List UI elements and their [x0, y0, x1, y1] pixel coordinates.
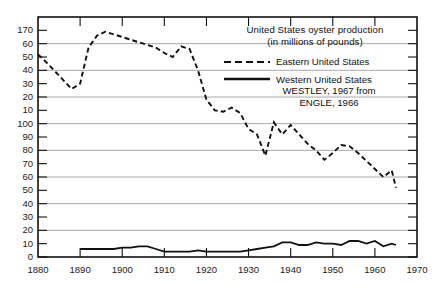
x-axis-tick-label: 1960 — [355, 265, 395, 275]
y-axis-tick-label: 40 — [0, 199, 33, 209]
legend-title-line-2: (in millions of pounds) — [222, 36, 408, 48]
legend-entry-western: Western United States — [222, 74, 408, 86]
y-axis-tick-label: 60 — [0, 172, 33, 182]
y-axis-tick-label: 30 — [0, 79, 33, 89]
y-axis-tick-label: 90 — [0, 132, 33, 142]
y-axis-tick-label: 60 — [0, 39, 33, 49]
x-axis-tick-label: 1920 — [186, 265, 226, 275]
legend-credit-line-1: WESTLEY, 1967 from — [250, 85, 408, 97]
legend-title-line-1: United States oyster production — [222, 24, 408, 36]
series-line-western — [80, 241, 396, 252]
x-axis-tick-label: 1970 — [397, 265, 436, 275]
y-axis-tick-label: 50 — [0, 52, 33, 62]
y-axis-tick-label: 50 — [0, 185, 33, 195]
chart-legend: United States oyster production (in mill… — [222, 24, 408, 108]
y-axis-tick-label: 10 — [0, 105, 33, 115]
left-axis-ticks — [38, 30, 47, 257]
y-axis-tick-label: 0 — [0, 252, 33, 262]
x-axis-tick-label: 1900 — [102, 265, 142, 275]
y-axis-tick-label: 100 — [0, 119, 33, 129]
x-axis-tick-label: 1930 — [229, 265, 269, 275]
legend-entry-eastern: Eastern United States — [222, 56, 408, 68]
y-axis-tick-label: 70 — [0, 159, 33, 169]
dashed-line-swatch-icon — [222, 57, 272, 67]
y-axis-tick-label: 80 — [0, 145, 33, 155]
y-axis-tick-label: 170 — [0, 25, 33, 35]
x-axis-tick-label: 1890 — [60, 265, 100, 275]
x-axis-tick-label: 1940 — [271, 265, 311, 275]
x-axis-tick-label: 1910 — [144, 265, 184, 275]
legend-label-western: Western United States — [276, 74, 372, 86]
chart-figure: 1706050403020101009080706050403020100 18… — [0, 0, 436, 292]
y-axis-tick-label: 10 — [0, 239, 33, 249]
right-axis-ticks — [408, 30, 417, 257]
y-axis-tick-label: 20 — [0, 225, 33, 235]
solid-line-swatch-icon — [222, 74, 272, 84]
y-axis-tick-label: 30 — [0, 212, 33, 222]
x-axis-tick-label: 1950 — [313, 265, 353, 275]
y-axis-tick-label: 40 — [0, 65, 33, 75]
legend-label-eastern: Eastern United States — [276, 56, 369, 68]
x-axis-tick-label: 1880 — [18, 265, 58, 275]
y-axis-tick-label: 20 — [0, 92, 33, 102]
legend-credit-line-2: ENGLE, 1966 — [250, 97, 408, 109]
